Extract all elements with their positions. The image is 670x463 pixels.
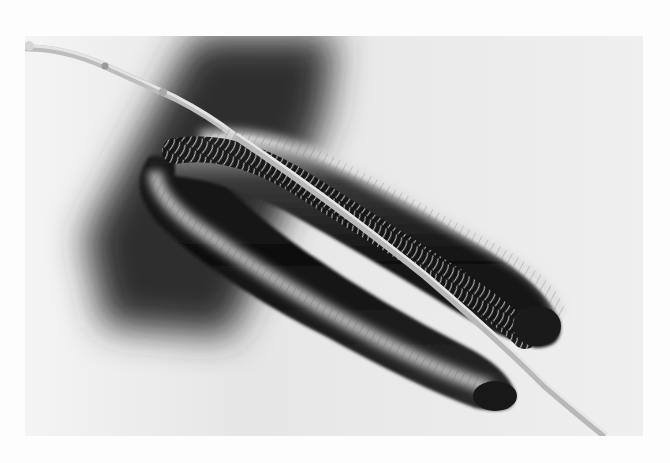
millipede-head: [513, 306, 561, 346]
photo-illustration: [25, 36, 643, 436]
page: [0, 0, 670, 463]
millipede-head-lower: [473, 381, 517, 411]
millipede-photo: [25, 36, 643, 436]
